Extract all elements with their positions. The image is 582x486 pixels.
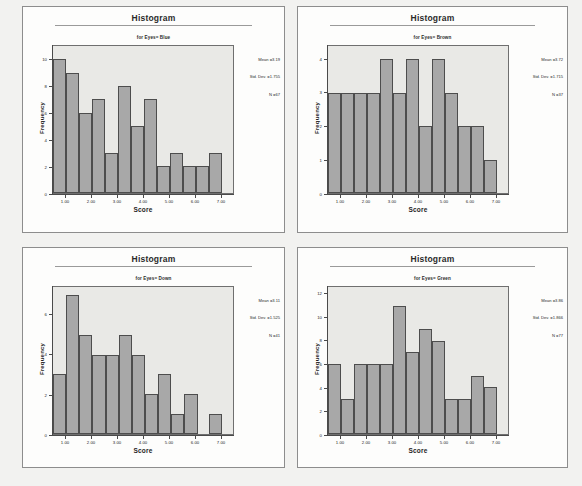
bar-series <box>328 287 508 434</box>
x-axis-tick-label: 6.00 <box>191 199 199 204</box>
histogram-bar <box>92 355 105 434</box>
x-axis-tick-label: 1.00 <box>336 199 344 204</box>
histogram-bar <box>380 364 393 434</box>
x-axis-label: Score <box>52 447 234 454</box>
panel-frame: Histogram for Eyes= Down Mean =3.11 Std.… <box>22 247 285 468</box>
histogram-bar <box>419 126 432 193</box>
x-axis-tick-label: 1.00 <box>61 440 69 445</box>
x-axis-tick <box>392 436 393 439</box>
y-axis-tick <box>324 59 327 60</box>
x-axis-label: Score <box>327 206 509 213</box>
histogram-bar <box>367 364 380 434</box>
chart-title: Histogram <box>23 254 284 264</box>
y-axis-tick-label: 2 <box>320 409 322 414</box>
bar-series <box>328 46 508 193</box>
plot-area-brown <box>327 45 509 194</box>
x-axis-tick <box>221 436 222 439</box>
histogram-bar <box>432 341 445 434</box>
y-axis-tick-label: 1 <box>320 158 322 163</box>
y-axis-tick <box>49 140 52 141</box>
x-axis-tick <box>340 436 341 439</box>
x-axis-tick <box>444 436 445 439</box>
y-axis-tick-label: 8 <box>45 83 47 88</box>
x-axis-tick <box>496 436 497 439</box>
histogram-panel-green: Histogram for Eyes= Green Mean =3.86 Std… <box>291 243 582 486</box>
stats-std-dev: Std. Dev. =1.715 <box>507 74 563 80</box>
y-axis-tick-label: 0 <box>45 192 47 197</box>
x-axis-tick-label: 7.00 <box>217 199 225 204</box>
y-axis-tick <box>324 194 327 195</box>
y-axis-tick <box>324 435 327 436</box>
stats-n: N =77 <box>507 333 563 339</box>
y-axis-tick-label: 0 <box>320 192 322 197</box>
y-axis-tick-label: 12 <box>317 291 322 296</box>
panel-frame: Histogram for Eyes= Brown Mean =3.72 Std… <box>297 6 568 233</box>
x-axis-tick <box>418 436 419 439</box>
bar-series <box>53 287 233 434</box>
histogram-bar <box>328 93 341 193</box>
plot-area-green <box>327 286 509 435</box>
histogram-bar <box>158 374 171 434</box>
y-axis-tick-label: 6 <box>45 110 47 115</box>
x-axis-tick <box>117 436 118 439</box>
y-axis-tick <box>324 160 327 161</box>
x-axis-tick-label: 7.00 <box>492 199 500 204</box>
x-axis-tick-label: 2.00 <box>362 199 370 204</box>
stats-n: N =37 <box>507 92 563 98</box>
histogram-bar <box>458 399 471 434</box>
x-axis-tick <box>91 436 92 439</box>
stats-std-dev: Std. Dev. =1.866 <box>507 315 563 321</box>
title-divider <box>330 266 535 267</box>
histogram-bar <box>380 59 393 193</box>
x-axis-tick-label: 3.00 <box>113 199 121 204</box>
histogram-bar <box>131 126 144 193</box>
title-divider <box>330 25 535 26</box>
x-axis-label: Score <box>52 206 234 213</box>
x-axis-tick-label: 7.00 <box>217 440 225 445</box>
plot-area-down <box>52 286 234 435</box>
y-axis-tick <box>324 364 327 365</box>
histogram-bar <box>393 93 406 193</box>
histogram-bar <box>119 335 132 434</box>
x-axis-tick-label: 3.00 <box>388 199 396 204</box>
y-axis-tick-label: 4 <box>320 56 322 61</box>
x-axis-tick-label: 2.00 <box>87 199 95 204</box>
stats-mean: Mean =3.72 <box>507 57 563 63</box>
y-axis-tick <box>49 435 52 436</box>
histogram-bar <box>106 355 119 434</box>
chart-subtitle: for Eyes= Down <box>63 276 244 281</box>
x-axis-tick <box>418 195 419 198</box>
title-divider <box>55 25 252 26</box>
x-axis-tick <box>169 195 170 198</box>
stats-annotation: Mean =3.86 Std. Dev. =1.866 N =77 <box>507 286 563 350</box>
histogram-bar <box>406 352 419 434</box>
x-axis-tick-label: 1.00 <box>336 440 344 445</box>
x-axis-tick-label: 2.00 <box>87 440 95 445</box>
histogram-panel-down: Histogram for Eyes= Down Mean =3.11 Std.… <box>0 243 291 486</box>
x-axis-tick <box>117 195 118 198</box>
histogram-bar <box>145 394 158 434</box>
y-axis-tick <box>324 340 327 341</box>
x-axis-tick-label: 4.00 <box>414 440 422 445</box>
y-axis-tick <box>324 317 327 318</box>
stats-annotation: Mean =3.72 Std. Dev. =1.715 N =37 <box>507 45 563 109</box>
y-axis-tick <box>324 293 327 294</box>
x-axis-tick-label: 6.00 <box>466 199 474 204</box>
y-axis-tick <box>49 194 52 195</box>
y-axis-tick-label: 4 <box>45 137 47 142</box>
x-axis-tick-label: 3.00 <box>388 440 396 445</box>
title-divider <box>55 266 252 267</box>
y-axis-tick <box>324 126 327 127</box>
histogram-bar <box>432 59 445 193</box>
histogram-bar <box>53 59 66 193</box>
scanned-page: Histogram for Eyes= Blue Mean =3.19 Std.… <box>0 0 582 486</box>
x-axis-tick-label: 1.00 <box>61 199 69 204</box>
x-axis-tick-label: 5.00 <box>440 440 448 445</box>
x-axis-tick-label: 7.00 <box>492 440 500 445</box>
y-axis-tick <box>49 59 52 60</box>
histogram-bar <box>419 329 432 434</box>
y-tick-group: 024681012 <box>298 286 327 435</box>
histogram-bar <box>79 113 92 193</box>
x-axis-tick <box>169 436 170 439</box>
plot-area-blue <box>52 45 234 194</box>
